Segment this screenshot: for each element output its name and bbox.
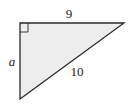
top-side-label: 9: [66, 6, 73, 21]
left-side-label: a: [9, 54, 16, 69]
right-triangle: [20, 23, 124, 99]
hypotenuse-label: 10: [71, 64, 84, 79]
triangle-diagram: 9 a 10: [0, 0, 130, 107]
